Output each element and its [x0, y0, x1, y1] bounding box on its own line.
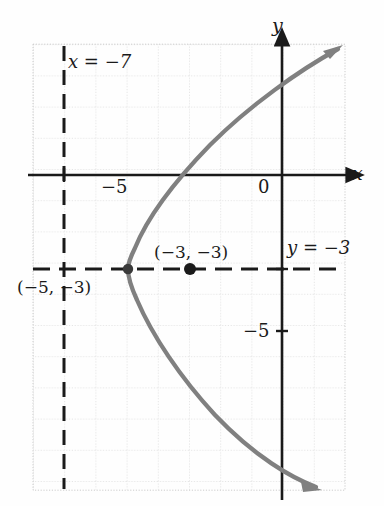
- graph-figure: x y 0 −5 −5 x = −7 y = −3 (−5, −3) (−3, …: [0, 0, 384, 506]
- directrix-label: x = −7: [68, 53, 131, 71]
- axis-of-symmetry-label: y = −3: [287, 239, 350, 257]
- x-axis-label: x: [352, 164, 363, 183]
- focus-coordinate-label: (−3, −3): [154, 244, 228, 261]
- y-tick-label-minus5: −5: [243, 322, 270, 340]
- vertex-point: [123, 264, 133, 274]
- y-axis-label: y: [272, 16, 283, 35]
- origin-label: 0: [258, 178, 269, 196]
- x-tick-label-minus5: −5: [101, 178, 128, 196]
- focus-point: [184, 263, 196, 275]
- vertex-coordinate-label: (−5, −3): [17, 279, 91, 296]
